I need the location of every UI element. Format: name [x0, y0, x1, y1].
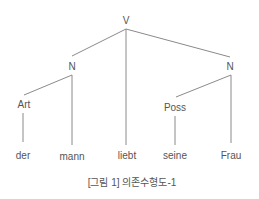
word-liebt: liebt [118, 150, 136, 161]
word-seine: seine [163, 150, 187, 161]
node-n-right: N [226, 61, 233, 72]
edge-v-right-n [126, 29, 230, 57]
word-frau: Frau [221, 150, 242, 161]
node-n-left: N [68, 61, 75, 72]
node-poss: Poss [164, 102, 186, 113]
edge-left-n-art [24, 75, 72, 95]
word-der: der [16, 150, 30, 161]
figure-caption: [그림 1] 의존수형도-1 [88, 174, 177, 189]
edge-v-left-n [72, 29, 126, 56]
tree-edges [0, 0, 259, 199]
word-mann: mann [59, 151, 84, 162]
node-v: V [123, 15, 130, 26]
node-art: Art [18, 99, 31, 110]
edge-right-n-poss [176, 75, 231, 97]
